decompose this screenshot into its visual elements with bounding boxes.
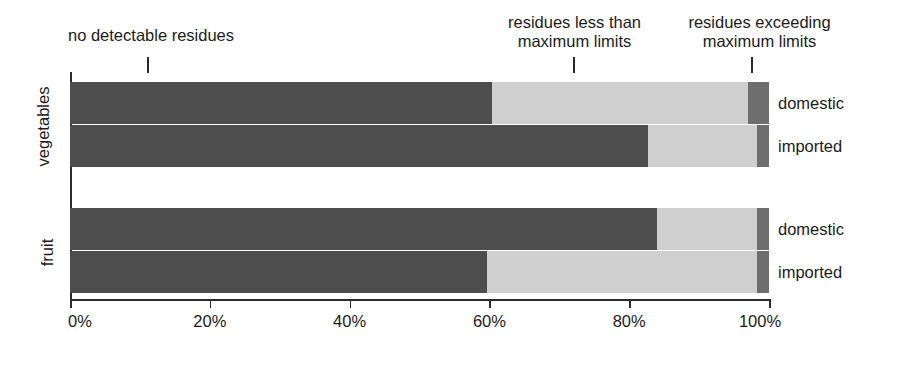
leader-line-no-detectable-residues — [147, 57, 149, 73]
plot-area: 0% 20% 40% 60% 80% 100% domestic importe… — [70, 72, 769, 300]
x-tick-label-60: 60% — [473, 312, 506, 331]
annotation-no-detectable-residues: no detectable residues — [68, 26, 234, 45]
bar-label-vegetables-domestic: domestic — [778, 94, 844, 113]
x-tick-label-20: 20% — [193, 312, 226, 331]
x-tick-80 — [629, 299, 631, 308]
annotation-residues-less-than-maximum-limits: residues less than maximum limits — [492, 13, 657, 51]
segment-residues-less-than-maximum-limits — [657, 208, 757, 250]
segment-residues-less-than-maximum-limits — [487, 251, 757, 293]
x-tick-label-0: 0% — [68, 312, 92, 331]
leader-line-residues-exceeding-maximum-limits — [751, 57, 753, 73]
segment-no-detectable-residues — [70, 125, 648, 167]
leader-line-residues-less-than-maximum-limits — [573, 57, 575, 73]
bar-label-fruit-domestic: domestic — [778, 220, 844, 239]
x-tick-40 — [350, 299, 352, 308]
segment-no-detectable-residues — [70, 208, 657, 250]
x-tick-label-40: 40% — [333, 312, 366, 331]
x-tick-label-80: 80% — [613, 312, 646, 331]
x-tick-label-100: 100% — [739, 312, 781, 331]
bar-vegetables-domestic — [70, 82, 769, 124]
segment-no-detectable-residues — [70, 251, 487, 293]
category-label-fruit: fruit — [38, 198, 57, 308]
bar-label-vegetables-imported: imported — [778, 137, 842, 156]
segment-residues-exceeding-maximum-limits — [757, 208, 769, 250]
segment-residues-less-than-maximum-limits — [492, 82, 748, 124]
bar-fruit-domestic — [70, 208, 769, 250]
segment-residues-exceeding-maximum-limits — [757, 251, 769, 293]
x-tick-0 — [70, 299, 72, 308]
segment-residues-exceeding-maximum-limits — [757, 125, 769, 167]
segment-residues-less-than-maximum-limits — [648, 125, 757, 167]
x-tick-100 — [769, 299, 771, 308]
x-tick-60 — [489, 299, 491, 308]
bar-vegetables-imported — [70, 125, 769, 167]
stacked-bar-chart: no detectable residues residues less tha… — [0, 0, 905, 377]
bar-label-fruit-imported: imported — [778, 263, 842, 282]
bar-fruit-imported — [70, 251, 769, 293]
x-axis-line — [70, 299, 770, 301]
segment-residues-exceeding-maximum-limits — [748, 82, 769, 124]
category-label-vegetables: vegetables — [34, 72, 53, 182]
x-tick-20 — [210, 299, 212, 308]
annotation-residues-exceeding-maximum-limits: residues exceeding maximum limits — [672, 13, 847, 51]
segment-no-detectable-residues — [70, 82, 492, 124]
